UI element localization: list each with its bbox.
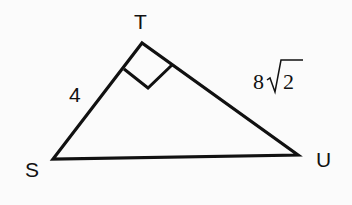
vertex-label-u: U: [316, 148, 331, 171]
triangle-diagram: T S U 4 8 2: [0, 0, 352, 205]
right-angle-marker: [124, 65, 172, 88]
triangle-stu: [53, 43, 298, 159]
side-label-tu: 8 2: [253, 60, 303, 94]
side-label-tu-coefficient: 8: [253, 69, 264, 94]
side-label-tu-radicand: 2: [283, 69, 294, 94]
vertex-label-s: S: [25, 158, 39, 181]
side-label-st: 4: [69, 83, 81, 106]
vertex-label-t: T: [134, 10, 147, 33]
